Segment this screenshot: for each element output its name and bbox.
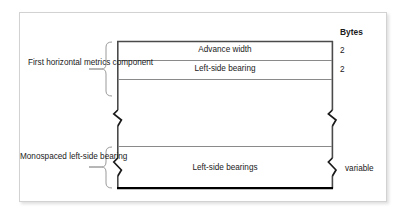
bytes-column-header: Bytes [340, 27, 363, 37]
bytes-value-left-side-bearings: variable [345, 164, 374, 174]
bytes-value-left-side-bearing: 2 [340, 65, 345, 75]
break-mark-left-upper [114, 110, 122, 126]
figure-screenshot: First horizontal metrics component Monos… [0, 0, 410, 219]
break-mark-right-upper [328, 110, 336, 126]
brace-first-horizontal-metrics [102, 42, 113, 96]
caption-monospaced-left-side-bearing: Monospaced left-side bearing [20, 152, 90, 162]
caption-first-horizontal-metrics-component: First horizontal metrics component [28, 58, 90, 68]
bytes-value-advance-width: 2 [340, 46, 345, 56]
row-label-left-side-bearing: Left-side bearing [117, 64, 333, 74]
row-label-left-side-bearings: Left-side bearings [117, 163, 333, 173]
row-label-advance-width: Advance width [117, 45, 333, 55]
